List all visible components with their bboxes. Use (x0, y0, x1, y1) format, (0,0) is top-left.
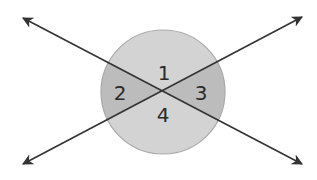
diagram-svg: 1 2 3 4 (0, 0, 317, 180)
angle-label-1: 1 (158, 61, 171, 85)
angle-label-4: 4 (157, 103, 170, 127)
angle-label-2: 2 (114, 81, 127, 105)
angle-label-3: 3 (195, 81, 208, 105)
vertical-angles-diagram: 1 2 3 4 (0, 0, 317, 180)
